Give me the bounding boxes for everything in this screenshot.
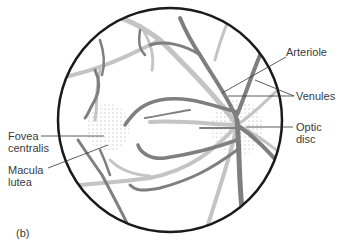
panel-label: (b)	[16, 227, 29, 239]
label-optic-disc-1: Optic	[296, 121, 322, 133]
retina-diagram	[0, 0, 341, 250]
label-fovea-2: centralis	[8, 142, 49, 154]
label-macula-2: lutea	[8, 176, 32, 188]
macula-stipple	[86, 104, 130, 152]
label-arteriole: Arteriole	[286, 46, 327, 58]
label-venules: Venules	[296, 90, 335, 102]
label-macula-1: Macula	[8, 164, 43, 176]
label-fovea-1: Fovea	[8, 130, 39, 142]
label-optic-disc-2: disc	[296, 133, 316, 145]
